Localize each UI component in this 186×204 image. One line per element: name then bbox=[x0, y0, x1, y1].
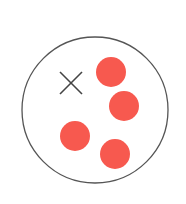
diagram-canvas bbox=[0, 0, 186, 204]
red-dots-group bbox=[60, 57, 139, 169]
red-dot-1 bbox=[96, 57, 126, 87]
container-circle bbox=[22, 37, 168, 183]
red-dot-3 bbox=[60, 121, 90, 151]
x-mark-icon bbox=[60, 72, 82, 94]
red-dot-4 bbox=[100, 139, 130, 169]
red-dot-2 bbox=[109, 91, 139, 121]
